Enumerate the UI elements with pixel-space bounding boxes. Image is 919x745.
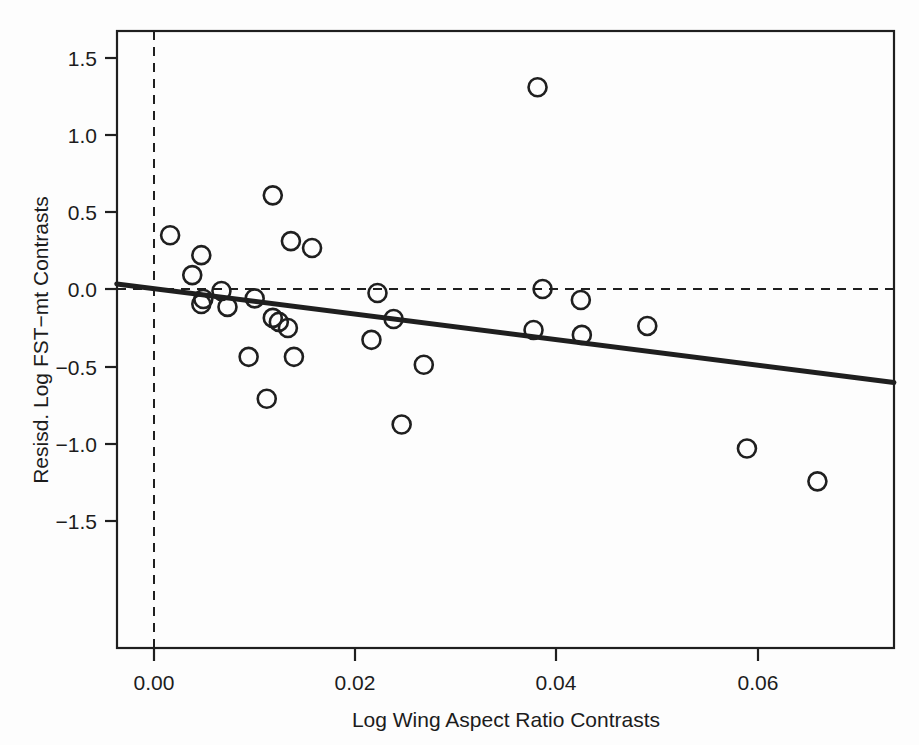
data-point — [808, 472, 826, 490]
data-points-layer — [161, 78, 826, 490]
x-tick-label: 0.02 — [335, 671, 376, 694]
data-point — [264, 186, 282, 204]
data-point — [282, 232, 300, 250]
data-point — [368, 284, 386, 302]
y-tick-label: 1.5 — [68, 47, 97, 70]
data-point — [362, 331, 380, 349]
data-point — [572, 291, 590, 309]
data-point — [183, 266, 201, 284]
data-point — [393, 415, 411, 433]
data-point — [258, 390, 276, 408]
data-point — [240, 348, 258, 366]
data-point — [285, 348, 303, 366]
data-point — [638, 317, 656, 335]
reference-lines — [117, 31, 894, 648]
x-axis-ticks — [154, 648, 758, 661]
x-tick-label: 0.00 — [134, 671, 175, 694]
data-point — [303, 239, 321, 257]
y-axis-ticks — [105, 58, 117, 521]
x-axis-title: Log Wing Aspect Ratio Contrasts — [352, 708, 660, 731]
y-tick-label: −1.0 — [56, 433, 97, 456]
scatter-plot-figure: 1.5 1.0 0.5 0.0 −0.5 −1.0 −1.5 0.00 0.02… — [0, 0, 919, 745]
plot-frame — [117, 31, 894, 648]
y-tick-label: −0.5 — [56, 356, 97, 379]
plot-canvas: 1.5 1.0 0.5 0.0 −0.5 −1.0 −1.5 0.00 0.02… — [0, 0, 919, 745]
data-point — [529, 78, 547, 96]
data-point — [161, 226, 179, 244]
data-point — [192, 246, 210, 264]
x-tick-label: 0.04 — [536, 671, 577, 694]
y-tick-label: 0.0 — [68, 278, 97, 301]
y-tick-label: −1.5 — [56, 510, 97, 533]
x-tick-label: 0.06 — [738, 671, 779, 694]
data-point — [738, 439, 756, 457]
y-tick-label: 1.0 — [68, 124, 97, 147]
y-axis-tick-labels: 1.5 1.0 0.5 0.0 −0.5 −1.0 −1.5 — [56, 47, 97, 533]
data-point — [415, 356, 433, 374]
y-axis-title: Resisd. Log FST−mt Contrasts — [29, 196, 52, 484]
data-point — [218, 298, 236, 316]
x-axis-tick-labels: 0.00 0.02 0.04 0.06 — [134, 671, 779, 694]
y-tick-label: 0.5 — [68, 201, 97, 224]
